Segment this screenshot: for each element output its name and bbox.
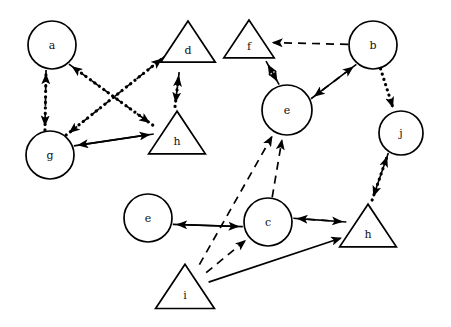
node-a-n1[interactable]: a (28, 21, 76, 69)
node-c-n10[interactable]: c (244, 198, 292, 246)
diagram-canvas: adfbghejechi (0, 0, 451, 327)
node-d-n2[interactable]: d (161, 21, 216, 62)
node-label: d (184, 44, 191, 57)
node-f-n3[interactable]: f (224, 20, 274, 58)
node-j-n8[interactable]: j (379, 111, 423, 155)
node-label: b (369, 39, 376, 52)
node-g-n5[interactable]: g (26, 131, 74, 179)
graph-svg: adfbghejechi (0, 0, 451, 327)
node-label: h (364, 228, 371, 241)
edge-n2-n5 (70, 56, 165, 132)
node-label: a (49, 39, 56, 52)
node-label: h (173, 135, 180, 148)
node-layer: adfbghejechi (26, 20, 423, 309)
node-e-n7[interactable]: e (262, 85, 312, 135)
node-b-n4[interactable]: b (349, 21, 397, 69)
node-h-n6[interactable]: h (149, 111, 206, 154)
edge-n8-n11 (374, 153, 389, 195)
edge-n1-n6 (69, 64, 149, 122)
edge-n7-n3 (268, 66, 279, 85)
node-h-n11[interactable]: h (340, 204, 397, 247)
edge-n4-n3 (273, 43, 348, 45)
node-i-n12[interactable]: i (156, 264, 215, 308)
edge-n9-n10 (173, 224, 238, 226)
node-label: e (284, 104, 291, 117)
edge-n10-n7 (272, 141, 282, 198)
node-label: e (145, 212, 152, 225)
edge-n4-n8 (381, 69, 393, 106)
edge-n6-n5 (79, 134, 154, 145)
node-label: g (46, 149, 53, 162)
node-label: c (265, 216, 271, 229)
edge-n12-n10 (206, 241, 245, 273)
edge-n11-n10 (298, 219, 346, 222)
node-e-n9[interactable]: e (124, 194, 172, 242)
node-label: i (183, 289, 187, 302)
edge-n5-n2 (66, 60, 161, 136)
